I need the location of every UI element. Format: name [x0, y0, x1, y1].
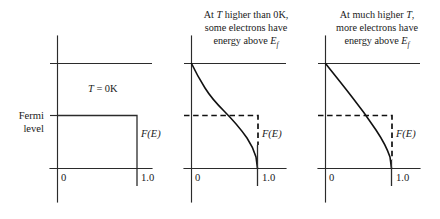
xtick-label-one-panel1: 1.0: [141, 172, 154, 183]
caption-line2-panel2: some electrons have: [205, 22, 288, 33]
xtick-label-one-panel2: 1.0: [262, 172, 275, 183]
caption-p3-l3-sub: f: [408, 41, 411, 49]
fe-curve-label-panel3: F(E): [395, 128, 416, 140]
caption-line2-panel3: more electrons have: [336, 22, 419, 33]
xtick-label-zero-panel2: 0: [195, 172, 200, 183]
fe-curve-label-panel1: F(E): [140, 128, 161, 140]
caption-p3-l3-pre: energy above: [344, 35, 401, 46]
caption-p2-l3-pre: energy above: [213, 35, 270, 46]
caption-p3-l1-pre: At much higher: [340, 9, 407, 20]
caption-line3-panel3: energy above Ef: [344, 35, 410, 49]
step-curve-panel1: [58, 116, 138, 187]
temperature-value: = 0K: [94, 83, 118, 94]
fermi-distribution-figure: Fermi level T = 0K F(E) 0 1.0 At T highe…: [0, 0, 440, 219]
xtick-label-zero-panel3: 0: [329, 172, 334, 183]
caption-p2-l3-sub: f: [277, 41, 280, 49]
caption-line3-panel2: energy above Ef: [213, 35, 279, 49]
panel-much-higher-t: At much higher T, more electrons have en…: [318, 9, 420, 202]
caption-line1-panel2: At T higher than 0K,: [204, 9, 289, 20]
temperature-label-panel1: T = 0K: [88, 83, 118, 94]
dashed-reference-panel2: [184, 116, 258, 146]
figure-canvas: Fermi level T = 0K F(E) 0 1.0 At T highe…: [0, 0, 440, 219]
caption-line1-panel3: At much higher T,: [340, 9, 415, 20]
fe-curve-label-panel2: F(E): [261, 128, 282, 140]
caption-p3-l1-post: ,: [412, 9, 415, 20]
xtick-label-zero-panel1: 0: [61, 172, 66, 183]
panel-higher-t: At T higher than 0K, some electrons have…: [184, 9, 288, 202]
fermi-level-label-line2: level: [23, 123, 44, 134]
caption-p2-l1-pre: At: [204, 9, 217, 20]
fermi-level-label-line1: Fermi: [19, 110, 44, 121]
caption-p2-l1-post: higher than 0K,: [222, 9, 288, 20]
xtick-label-one-panel3: 1.0: [396, 172, 409, 183]
panel-zero-kelvin: Fermi level T = 0K F(E) 0 1.0: [19, 36, 161, 202]
